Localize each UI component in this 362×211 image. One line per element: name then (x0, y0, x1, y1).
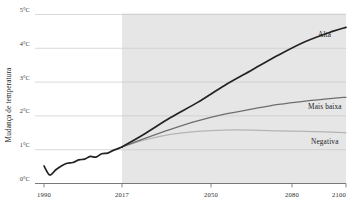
y-tick-label: 1°C (20, 141, 30, 148)
y-axis-title-text: Mudança de temperatura (5, 67, 13, 142)
y-tick-label: 5°C (20, 6, 30, 13)
y-tick-label: 3°C (20, 74, 30, 81)
y-tick-label: 4°C (20, 40, 30, 47)
series-label-alta: Alta (318, 30, 332, 39)
y-tick-label: 2°C (20, 107, 30, 114)
temperature-change-chart: 0°C1°C2°C3°C4°C5°C 19902017205020802100 … (0, 0, 362, 211)
series-label-mais-baixa: Mais baixa (308, 102, 342, 111)
y-axis-title: Mudança de temperatura (5, 67, 13, 142)
series-label-negativa: Negativa (311, 137, 339, 146)
x-tick-label: 1990 (37, 191, 51, 198)
y-tick-label: 0°C (20, 175, 30, 182)
chart-canvas: 0°C1°C2°C3°C4°C5°C 19902017205020802100 … (0, 0, 362, 211)
x-tick-label: 2100 (332, 191, 346, 198)
x-tick-label: 2080 (285, 191, 299, 198)
x-tick-label: 2050 (204, 191, 218, 198)
x-tick-label: 2017 (115, 191, 129, 198)
